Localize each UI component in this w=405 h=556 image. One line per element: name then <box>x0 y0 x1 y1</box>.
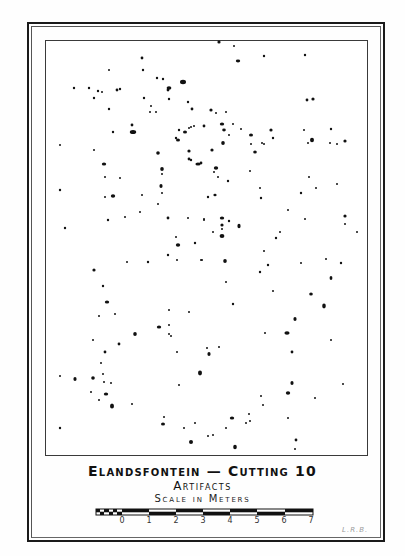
scale-tick-0: 0 <box>117 516 127 525</box>
scale-tick-4: 4 <box>225 516 235 525</box>
scale-tick-3: 3 <box>198 516 208 525</box>
scale-bar <box>0 0 405 556</box>
scale-tick-2: 2 <box>171 516 181 525</box>
scale-tick-1: 1 <box>144 516 154 525</box>
map-sheet: Elandsfontein — Cutting 10 Artifacts Sca… <box>0 0 405 556</box>
scale-tick-6: 6 <box>279 516 289 525</box>
scale-tick-7: 7 <box>306 516 316 525</box>
scale-tick-5: 5 <box>252 516 262 525</box>
draftsman-initials: L.R.B. <box>342 526 368 534</box>
